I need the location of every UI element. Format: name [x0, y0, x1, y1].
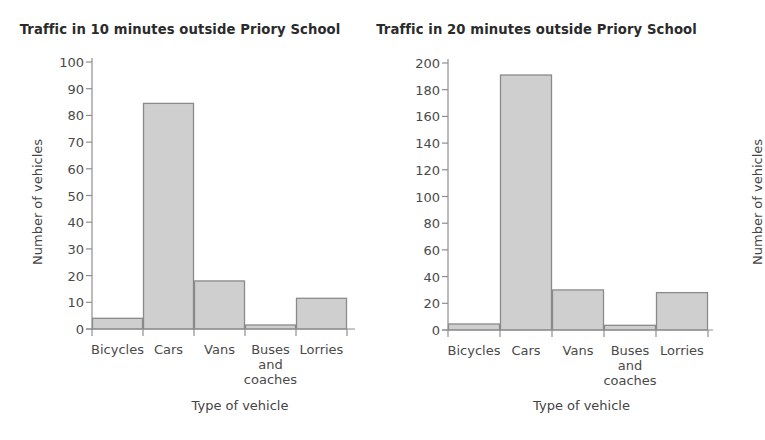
bar-group	[449, 324, 500, 330]
y-axis-title-20-minutes: Number of vehicles	[750, 139, 765, 265]
y-tick-label: 200	[402, 56, 440, 71]
bar-cars	[501, 75, 552, 330]
y-tick-label: 120	[402, 162, 440, 177]
bar-group	[246, 325, 296, 329]
x-category-label-line: and	[573, 358, 687, 373]
bar-group	[93, 318, 143, 329]
y-tick-label: 80	[46, 108, 84, 123]
y-tick-label: 40	[46, 215, 84, 230]
x-axis-title-10-minutes: Type of vehicle	[0, 398, 420, 413]
y-tick-label: 160	[402, 109, 440, 124]
bar-bicycles	[93, 318, 143, 329]
y-tick-label: 70	[46, 135, 84, 150]
bar-buses-and-coaches	[605, 325, 656, 330]
x-category-label-line: coaches	[214, 372, 326, 387]
y-tick-label: 30	[46, 241, 84, 256]
bar-vans	[553, 290, 604, 330]
bar-group	[553, 290, 604, 330]
bar-buses-and-coaches	[246, 325, 296, 329]
y-tick-label: 10	[46, 295, 84, 310]
y-tick-label: 50	[46, 188, 84, 203]
bar-cars	[144, 103, 194, 329]
x-axis-title-20-minutes: Type of vehicle	[360, 398, 758, 413]
y-tick-label: 60	[402, 242, 440, 257]
chart-panel-20-minutes: Traffic in 20 minutes outside Priory Sch…	[360, 0, 713, 440]
y-tick-label: 0	[402, 323, 440, 338]
bar-group	[144, 103, 194, 329]
x-category-label: Lorries	[625, 343, 739, 358]
y-tick-label: 60	[46, 161, 84, 176]
x-category-label-line: and	[214, 357, 326, 372]
y-tick-label: 80	[402, 216, 440, 231]
y-tick-label: 40	[402, 269, 440, 284]
x-category-label-line: coaches	[573, 373, 687, 388]
bar-group	[501, 75, 552, 330]
bar-lorries	[657, 293, 708, 330]
bar-lorries	[297, 298, 347, 329]
chart-panel-10-minutes: Traffic in 10 minutes outside Priory Sch…	[0, 0, 360, 440]
y-tick-label: 0	[46, 322, 84, 337]
bar-vans	[195, 281, 245, 329]
y-tick-label: 20	[402, 296, 440, 311]
y-tick-label: 90	[46, 81, 84, 96]
bar-group	[605, 325, 656, 330]
x-category-label-line: Lorries	[625, 343, 739, 358]
bar-group	[297, 298, 347, 329]
y-tick-label: 180	[402, 82, 440, 97]
y-tick-label: 20	[46, 268, 84, 283]
bar-group	[657, 293, 708, 330]
y-axis-title-10-minutes: Number of vehicles	[30, 139, 45, 265]
y-tick-label: 100	[46, 55, 84, 70]
bar-group	[195, 281, 245, 329]
bar-bicycles	[449, 324, 500, 330]
y-tick-label: 140	[402, 136, 440, 151]
y-tick-label: 100	[402, 189, 440, 204]
